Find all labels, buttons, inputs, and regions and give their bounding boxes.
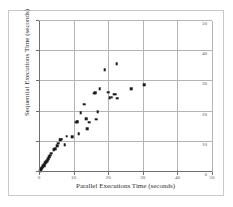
data-point	[65, 135, 68, 138]
x-tick-label: 30	[140, 175, 145, 180]
y-tick	[36, 171, 39, 172]
data-point	[143, 84, 146, 87]
data-point	[83, 103, 86, 106]
data-point	[99, 87, 102, 90]
gridline-horizontal	[39, 141, 212, 142]
data-point	[77, 133, 80, 136]
y-tick	[36, 111, 39, 112]
data-point	[97, 110, 100, 113]
y-tick	[36, 20, 39, 21]
y-tick	[36, 141, 39, 142]
x-axis-line	[39, 171, 212, 172]
data-point	[110, 96, 113, 99]
gridline-horizontal	[39, 111, 212, 112]
x-tick-label: 10	[71, 175, 76, 180]
x-tick-label: 20	[106, 175, 111, 180]
y-axis-line	[39, 21, 40, 172]
data-point	[115, 63, 118, 66]
data-point	[63, 144, 66, 147]
data-point	[130, 87, 133, 90]
y-axis-title: Sequential Executions Time (seconds)	[24, 0, 31, 133]
gridline-horizontal	[39, 80, 212, 81]
gridline-vertical	[177, 21, 178, 172]
data-point	[103, 69, 106, 72]
x-axis-title: Parallel Executions Time (seconds)	[39, 183, 212, 190]
gridline-vertical	[212, 21, 213, 172]
gridline-horizontal	[39, 20, 212, 21]
gridline-vertical	[143, 21, 144, 172]
data-point	[116, 97, 119, 100]
data-point	[50, 152, 53, 155]
y-tick	[36, 80, 39, 81]
data-point	[95, 118, 98, 121]
x-tick-label: 50	[210, 175, 215, 180]
data-point	[85, 118, 88, 121]
x-tick-label: 40	[175, 175, 180, 180]
y-tick	[36, 50, 39, 51]
data-point	[56, 145, 59, 148]
data-point	[71, 136, 74, 139]
gridline-vertical	[74, 21, 75, 172]
gridline-horizontal	[39, 50, 212, 51]
plot-area: 0102030405001020304050	[39, 21, 212, 172]
data-point	[54, 147, 57, 150]
chart-figure: 0102030405001020304050 Parallel Executio…	[8, 10, 224, 196]
data-point	[57, 142, 60, 145]
data-point	[114, 93, 117, 96]
data-point	[79, 112, 82, 115]
data-point	[94, 92, 97, 95]
data-point	[43, 165, 46, 168]
data-point	[60, 138, 63, 141]
x-tick-label: 0	[38, 175, 41, 180]
data-point	[88, 121, 91, 124]
data-point	[107, 91, 110, 94]
data-point	[76, 121, 79, 124]
data-point	[86, 127, 89, 130]
